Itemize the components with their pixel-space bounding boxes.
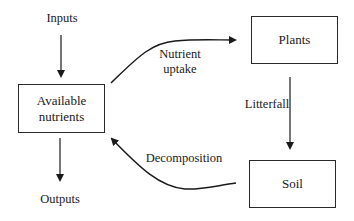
inputs-label: Inputs — [38, 11, 86, 26]
soil-label: Soil — [282, 176, 303, 192]
plants-box: Plants — [251, 16, 338, 64]
nutrient-uptake-label-line2: uptake — [152, 62, 208, 77]
plants-label: Plants — [279, 32, 311, 48]
litterfall-label: Litterfall — [243, 97, 291, 112]
outputs-label: Outputs — [34, 192, 86, 207]
decomposition-label: Decomposition — [143, 151, 225, 166]
available-nutrients-box: Available nutrients — [18, 84, 105, 133]
nutrient-uptake-label: Nutrient uptake — [152, 47, 208, 77]
nutrient-uptake-label-line1: Nutrient — [152, 47, 208, 62]
available-nutrients-label-line1: Available — [37, 93, 87, 109]
available-nutrients-label-line2: nutrients — [39, 109, 85, 125]
soil-box: Soil — [249, 160, 336, 208]
